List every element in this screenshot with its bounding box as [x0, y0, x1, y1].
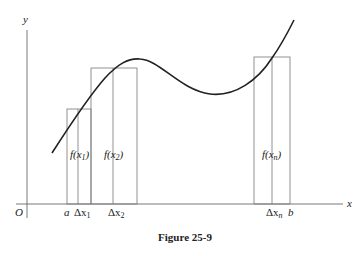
tick-dx1: Δx1: [74, 206, 91, 220]
tick-b: b: [288, 206, 294, 218]
tick-a: a: [64, 206, 70, 218]
origin-label: O: [15, 206, 23, 218]
tick-dx2: Δx2: [108, 206, 125, 220]
function-curve: [52, 20, 294, 153]
rect-2-height-label: f(x2): [104, 148, 124, 162]
rect-n-height-label: f(xn): [262, 148, 282, 162]
rect-n: [254, 57, 290, 204]
rect-2: [91, 68, 137, 204]
tick-dxn: Δxn: [266, 206, 283, 220]
y-axis-label: y: [22, 13, 28, 25]
x-axis-label: x: [346, 197, 352, 209]
riemann-sum-figure: y x O f(x1) f(x2) f(xn) a Δx1 Δx2 Δxn b …: [0, 0, 364, 256]
figure-caption: Figure 25-9: [158, 231, 212, 243]
rect-1-height-label: f(x1): [70, 148, 90, 162]
